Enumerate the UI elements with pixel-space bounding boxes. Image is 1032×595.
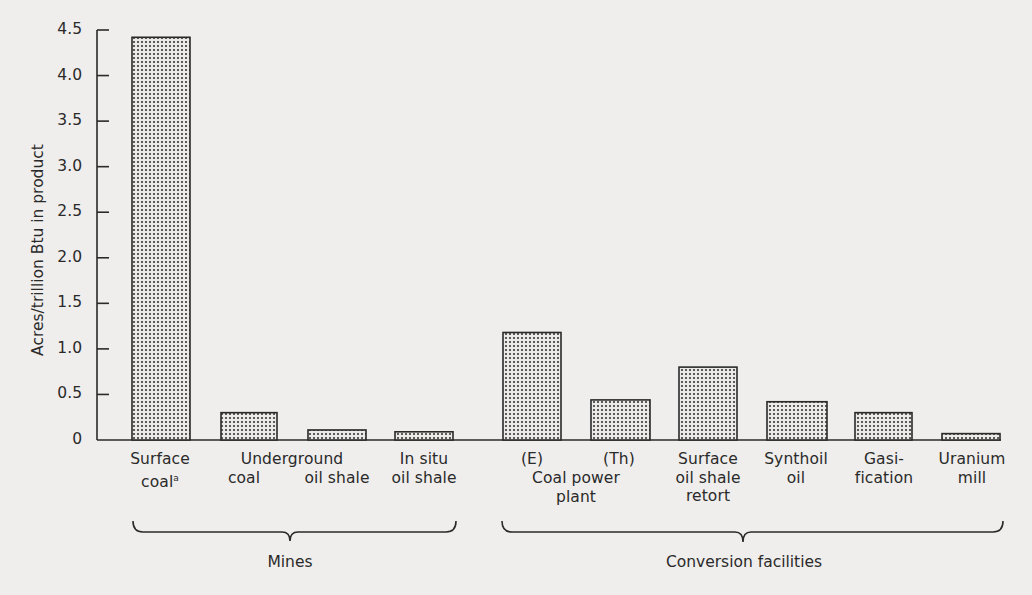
bar	[855, 413, 912, 440]
bar	[221, 413, 277, 440]
bars	[132, 37, 1000, 440]
label-gasification: Gasi-fication	[855, 450, 913, 487]
bar	[591, 400, 650, 440]
mines-brace	[133, 521, 456, 541]
group-label-mines: Mines	[267, 553, 312, 571]
bar	[942, 434, 1000, 440]
y-tick-label: 3.5	[42, 112, 82, 128]
footnote-marker: a	[173, 473, 179, 483]
label-e: (E)	[521, 450, 543, 469]
y-tick-label: 2.0	[42, 249, 82, 265]
y-tick-label: 2.5	[42, 203, 82, 219]
y-tick-label: 1.0	[42, 340, 82, 356]
label-in-situ: In situoil shale	[391, 450, 456, 487]
y-tick-label: 0.5	[42, 385, 82, 401]
label-synthoil: Synthoiloil	[764, 450, 828, 487]
label-coal-power-plant: Coal powerplant	[532, 469, 620, 506]
bar	[132, 37, 190, 440]
bar	[503, 332, 561, 440]
bar	[395, 432, 453, 440]
y-tick-label: 3.0	[42, 158, 82, 174]
y-tick-label: 4.0	[42, 67, 82, 83]
label-surface-oil-shale-retort: Surfaceoil shaleretort	[675, 450, 740, 506]
label-surface-coal: Surfacecoala	[130, 450, 190, 491]
conversion-brace	[502, 521, 1003, 542]
y-tick-label: 0	[42, 431, 82, 447]
label-th: (Th)	[603, 450, 635, 469]
label-uranium-mill: Uraniummill	[939, 450, 1006, 487]
y-tick-label: 1.5	[42, 294, 82, 310]
group-braces	[133, 521, 1003, 542]
bar-chart	[0, 0, 1032, 595]
y-axis-label: Acres/trillion Btu in product	[29, 144, 47, 356]
label-underground-coal: coal	[228, 469, 260, 488]
label-underground-oil-shale: oil shale	[304, 469, 369, 488]
label-underground: Underground	[241, 450, 344, 469]
bar	[767, 402, 827, 440]
bar	[308, 430, 366, 440]
y-tick-label: 4.5	[42, 21, 82, 37]
group-label-conversion-facilities: Conversion facilities	[666, 553, 822, 571]
bar	[679, 367, 737, 440]
